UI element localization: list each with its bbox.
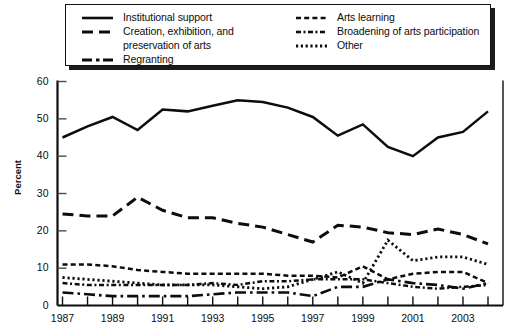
series-line-institutional-support	[63, 100, 489, 156]
chart-page: Institutional supportCreation, exhibitio…	[0, 0, 507, 334]
x-tick-label: 1995	[243, 312, 283, 324]
chart-plot-area	[0, 0, 507, 334]
series-line-other	[63, 240, 489, 289]
y-tick-label: 40	[25, 149, 49, 161]
y-tick-label: 10	[25, 261, 49, 273]
x-tick-label: 1991	[143, 312, 183, 324]
y-tick-label: 20	[25, 224, 49, 236]
y-tick-label: 50	[25, 112, 49, 124]
y-tick-label: 60	[25, 75, 49, 87]
x-tick-label: 1987	[43, 312, 83, 324]
x-tick-label: 1989	[93, 312, 133, 324]
x-tick-label: 2001	[393, 312, 433, 324]
x-tick-label: 1997	[293, 312, 333, 324]
x-tick-label: 1999	[343, 312, 383, 324]
y-tick-label: 30	[25, 187, 49, 199]
x-tick-label: 2003	[443, 312, 483, 324]
y-tick-label: 0	[25, 299, 49, 311]
series-line-broadening-of-arts-participation	[63, 279, 489, 288]
series-line-arts-learning	[63, 264, 489, 283]
x-tick-label: 1993	[193, 312, 233, 324]
series-line-creation-exhibition-and-preservation-of-arts	[63, 197, 489, 244]
